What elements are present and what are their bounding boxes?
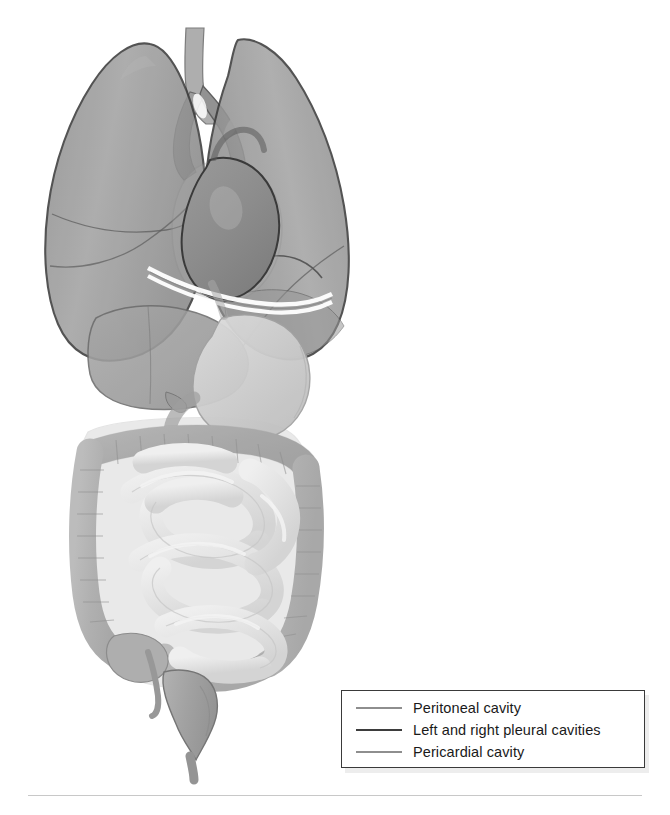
small-bowel-loop-7 — [180, 658, 260, 672]
legend-item-pericardial: Pericardial cavity — [342, 741, 644, 763]
legend-label-pleural: Left and right pleural cavities — [413, 722, 601, 738]
footer-divider — [28, 795, 642, 796]
legend-line-peritoneal — [356, 707, 402, 709]
legend-line-pericardial — [356, 751, 402, 753]
anatomy-figure: Peritoneal cavity Left and right pleural… — [0, 0, 670, 815]
rectum-group — [163, 670, 217, 780]
small-bowel-loop-9 — [144, 455, 226, 463]
legend-label-peritoneal: Peritoneal cavity — [413, 700, 521, 716]
legend-item-pleural: Left and right pleural cavities — [342, 719, 644, 741]
anal-canal — [190, 756, 194, 780]
legend: Peritoneal cavity Left and right pleural… — [341, 690, 645, 768]
legend-line-pleural — [356, 729, 402, 731]
legend-label-pericardial: Pericardial cavity — [413, 744, 524, 760]
legend-item-peritoneal: Peritoneal cavity — [342, 697, 644, 719]
